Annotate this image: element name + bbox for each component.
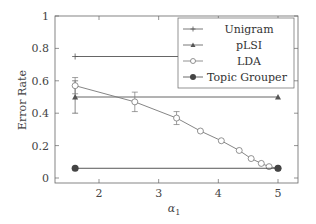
x-tick-label: 4: [215, 187, 222, 200]
x-axis-label: α1: [168, 202, 181, 217]
x-axis-label-subscript: 1: [175, 208, 180, 217]
y-tick-label: 0: [42, 172, 49, 185]
legend-label: pLSI: [236, 39, 262, 52]
legend-label: Topic Grouper: [207, 71, 288, 84]
series-topic-grouper: [72, 165, 282, 172]
chart: 00.20.40.60.812345 UnigrampLSILDATopic G…: [0, 0, 316, 224]
y-tick-label: 0.2: [32, 140, 50, 153]
series-lda: [72, 78, 281, 172]
legend: UnigrampLSILDATopic Grouper: [178, 18, 294, 88]
y-tick-label: 0.6: [32, 75, 50, 88]
x-tick-label: 3: [155, 187, 162, 200]
y-tick-label: 1: [42, 10, 49, 23]
y-tick-label: 0.4: [32, 107, 50, 120]
legend-label: Unigram: [224, 23, 274, 36]
x-tick-label: 5: [275, 187, 282, 200]
legend-label: LDA: [237, 55, 262, 68]
x-tick-label: 2: [96, 187, 103, 200]
y-tick-label: 0.8: [32, 42, 50, 55]
y-axis-label: Error Rate: [16, 70, 29, 130]
